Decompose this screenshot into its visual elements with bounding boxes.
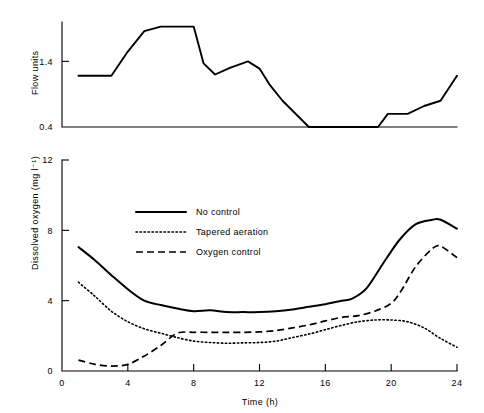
legend-label-no-control: No control: [196, 207, 240, 217]
flow-chart-axis-lines: [62, 22, 457, 127]
flow-chart-series: [78, 27, 457, 127]
figure-root: Flow units 0.41.4 Dissolved oxygen (mg l…: [0, 0, 484, 413]
dissolved-oxygen-chart-y-tick-label: 8: [48, 226, 53, 236]
dissolved-oxygen-chart-x-tick-label: 12: [254, 378, 265, 388]
legend-label-tapered-aeration: Tapered aeration: [196, 227, 268, 237]
figure-canvas: Flow units 0.41.4 Dissolved oxygen (mg l…: [0, 0, 484, 413]
flow-chart-line-flow: [78, 27, 457, 127]
dissolved-oxygen-chart-x-tick-label: 4: [125, 378, 130, 388]
dissolved-oxygen-chart-y-axis-title: Dissolved oxygen (mg l⁻¹): [30, 156, 40, 270]
dissolved-oxygen-chart-axis-lines: [62, 160, 457, 371]
dissolved-oxygen-chart-y-tick-labels: 04812: [42, 155, 53, 376]
dissolved-oxygen-chart-x-tick-label: 20: [386, 378, 397, 388]
dissolved-oxygen-chart-y-tick-label: 12: [42, 155, 53, 165]
flow-chart-y-tick-labels: 0.41.4: [39, 57, 53, 133]
dissolved-oxygen-chart-series: [78, 219, 457, 366]
dissolved-oxygen-chart-legend: No controlTapered aerationOxygen control: [136, 207, 268, 257]
dissolved-oxygen-chart-y-tick-label: 4: [48, 296, 53, 306]
dissolved-oxygen-chart-line-oxygen-control: [78, 246, 457, 367]
dissolved-oxygen-chart-x-tick-label: 8: [191, 378, 196, 388]
dissolved-oxygen-chart-x-tick-labels: 04812162024: [59, 378, 462, 388]
dissolved-oxygen-chart-x-tick-label: 24: [452, 378, 463, 388]
dissolved-oxygen-chart-panel: Dissolved oxygen (mg l⁻¹) Time (h) 04812…: [30, 155, 462, 407]
dissolved-oxygen-chart-x-tick-label: 16: [320, 378, 331, 388]
dissolved-oxygen-chart-x-axis-title: Time (h): [242, 397, 278, 407]
flow-chart-y-tick-label: 0.4: [39, 122, 53, 132]
dissolved-oxygen-chart-tick-marks: [62, 160, 457, 371]
flow-chart-y-tick-label: 1.4: [39, 57, 53, 67]
dissolved-oxygen-chart-x-tick-label: 0: [59, 378, 64, 388]
legend-label-oxygen-control: Oxygen control: [196, 247, 261, 257]
flow-chart-panel: Flow units 0.41.4: [30, 22, 457, 132]
dissolved-oxygen-chart-y-tick-label: 0: [48, 366, 53, 376]
